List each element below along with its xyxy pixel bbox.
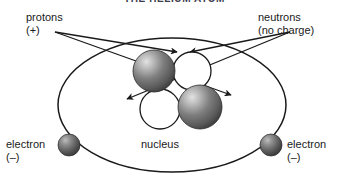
label-electron-left-name: electron [6, 138, 45, 151]
label-nucleus: nucleus [141, 138, 179, 151]
proton-particle-1 [133, 50, 175, 92]
electron-particle-right [260, 134, 282, 156]
neutron-particle-2 [140, 89, 180, 129]
label-protons-charge: (+) [26, 24, 63, 37]
label-protons-name: protons [26, 11, 63, 24]
neutron-particle-1 [173, 52, 211, 90]
electron-particle-left [58, 134, 80, 156]
label-electron-right: electron (–) [287, 138, 326, 164]
label-electron-left-charge: (–) [6, 151, 45, 164]
label-neutrons-name: neutrons [258, 11, 314, 24]
label-electron-left: electron (–) [6, 138, 45, 164]
label-electron-right-charge: (–) [287, 151, 326, 164]
helium-atom-diagram: THE HELIUM ATOM [0, 0, 349, 179]
label-neutrons-charge: (no charge) [258, 24, 314, 37]
label-neutrons: neutrons (no charge) [258, 11, 314, 37]
label-electron-right-name: electron [287, 138, 326, 151]
label-protons: protons (+) [26, 11, 63, 37]
leader-protons-to-proton-1 [55, 32, 177, 52]
proton-particle-2 [178, 85, 222, 129]
